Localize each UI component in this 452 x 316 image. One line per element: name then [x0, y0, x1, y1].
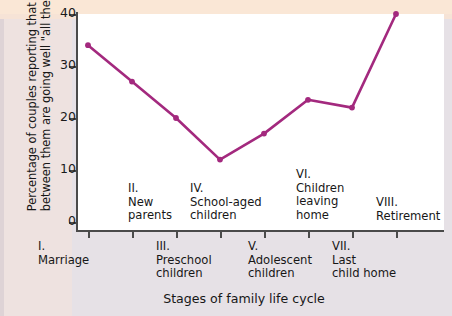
data-point-1: [85, 42, 91, 48]
data-point-8: [393, 11, 399, 17]
series-markers: [85, 11, 399, 162]
chart-figure: Percentage of couples reporting that thi…: [0, 0, 452, 316]
data-point-4: [217, 157, 223, 163]
data-point-7: [349, 105, 355, 111]
x-axis-title: Stages of family life cycle: [0, 291, 452, 306]
data-point-2: [129, 79, 135, 85]
data-point-5: [261, 131, 267, 137]
data-series-layer: [0, 0, 452, 316]
series-line: [88, 14, 396, 160]
data-point-3: [173, 115, 179, 121]
data-point-6: [305, 97, 311, 103]
